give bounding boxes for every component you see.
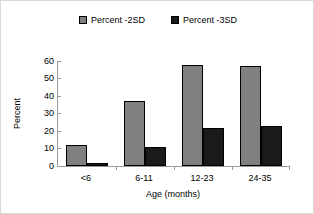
bar-group-6-11	[116, 61, 174, 166]
y-axis-title: Percent	[11, 61, 23, 166]
x-axis-tick-labels: <6 6-11 12-23 24-35	[57, 173, 289, 185]
bars-layer	[58, 61, 290, 166]
bar-24-35-percent-3sd	[261, 126, 282, 166]
plot-area: 60 50 40 30 20 10 0	[57, 61, 290, 167]
x-tick-mark	[174, 166, 175, 170]
chart-legend: Percent -2SD Percent -3SD	[1, 15, 314, 25]
x-label-12-23: 12-23	[173, 173, 231, 184]
x-axis-title: Age (months)	[57, 189, 289, 199]
legend-entry-percent-3sd: Percent -3SD	[171, 15, 237, 25]
legend-label-3sd: Percent -3SD	[183, 15, 237, 25]
legend-swatch-icon-2sd	[79, 16, 87, 24]
x-label-6-11: 6-11	[115, 173, 173, 184]
bar-chart-figure: Percent -2SD Percent -3SD Percent 60 50 …	[0, 0, 314, 214]
legend-label-2sd: Percent -2SD	[91, 15, 145, 25]
x-tick-mark	[116, 166, 117, 170]
x-label-lt6: <6	[57, 173, 115, 184]
x-tick-mark	[289, 166, 290, 170]
bar-lt6-percent-2sd	[66, 145, 87, 166]
x-tick-mark	[232, 166, 233, 170]
bar-6-11-percent-2sd	[124, 101, 145, 166]
bar-12-23-percent-3sd	[203, 128, 224, 167]
bar-12-23-percent-2sd	[182, 65, 203, 167]
bar-group-24-35	[232, 61, 290, 166]
legend-swatch-icon-3sd	[171, 16, 179, 24]
x-label-24-35: 24-35	[231, 173, 289, 184]
legend-entry-percent-2sd: Percent -2SD	[79, 15, 145, 25]
bar-group-12-23	[174, 61, 232, 166]
bar-group-lt6	[58, 61, 116, 166]
bar-lt6-percent-3sd	[87, 163, 108, 167]
bar-6-11-percent-3sd	[145, 147, 166, 166]
bar-24-35-percent-2sd	[240, 66, 261, 166]
